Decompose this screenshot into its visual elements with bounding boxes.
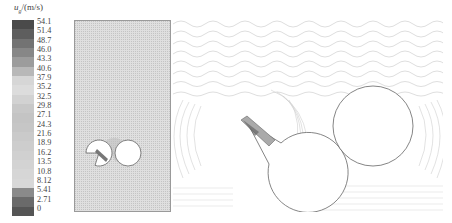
- colorbar-tick-label: 29.8: [37, 101, 51, 110]
- colorbar-tick-label: 0: [37, 204, 51, 213]
- colorbar-tick-label: 27.1: [37, 110, 51, 119]
- velocity-field-overview: [74, 20, 171, 212]
- colorbar-tick-label: 48.7: [37, 36, 51, 45]
- colorbar-tick-label: 43.3: [37, 54, 51, 63]
- colorbar-band: [12, 85, 34, 94]
- colorbar-band: [12, 151, 34, 160]
- colorbar-band: [12, 141, 34, 150]
- legend-unit: /(m/s): [22, 2, 44, 12]
- colorbar-tick-label: 8.12: [37, 176, 51, 185]
- colorbar-tick-label: 37.9: [37, 73, 51, 82]
- colorbar-band: [12, 48, 34, 57]
- colorbar-tick-label: 35.2: [37, 82, 51, 91]
- colorbar-band: [12, 20, 34, 29]
- colorbar-band: [12, 169, 34, 178]
- colorbar-band: [12, 113, 34, 122]
- colorbar-tick-label: 5.41: [37, 185, 51, 194]
- colorbar-band: [12, 207, 34, 216]
- colorbar-tick-label: 2.71: [37, 195, 51, 204]
- colorbar-band: [12, 104, 34, 113]
- colorbar: [12, 20, 34, 216]
- colorbar-band: [12, 179, 34, 188]
- colorbar-tick-label: 21.6: [37, 129, 51, 138]
- colorbar-band: [12, 95, 34, 104]
- left-cylinder-large: [241, 116, 348, 212]
- colorbar-tick-label: 46.0: [37, 45, 51, 54]
- colorbar-tick-label: 24.3: [37, 120, 51, 129]
- colorbar-tick-label: 51.4: [37, 26, 51, 35]
- colorbar-band: [12, 29, 34, 38]
- right-cylinder-small: [115, 140, 141, 166]
- colorbar-band: [12, 76, 34, 85]
- colorbar-tick-label: 10.8: [37, 167, 51, 176]
- colorbar-band: [12, 57, 34, 66]
- colorbar-band: [12, 132, 34, 141]
- overview-plot: [75, 21, 170, 211]
- colorbar-band: [12, 39, 34, 48]
- legend-title: ug/(m/s): [14, 2, 43, 14]
- colorbar-tick-label: 18.9: [37, 138, 51, 147]
- colorbar-tick-label: 32.5: [37, 92, 51, 101]
- colorbar-tick-label: 40.6: [37, 64, 51, 73]
- colorbar-band: [12, 197, 34, 206]
- colorbar-band: [12, 160, 34, 169]
- colorbar-band: [12, 67, 34, 76]
- colorbar-band: [12, 188, 34, 197]
- colorbar-tick-label: 13.5: [37, 157, 51, 166]
- zoom-plot: [173, 16, 443, 212]
- colorbar-labels: 54.151.448.746.043.340.637.935.232.529.8…: [37, 17, 51, 213]
- right-cylinder-large: [333, 86, 413, 166]
- colorbar-tick-label: 54.1: [37, 17, 51, 26]
- vector-waves: [173, 21, 443, 96]
- velocity-field-zoom: [173, 16, 443, 212]
- colorbar-band: [12, 123, 34, 132]
- colorbar-tick-label: 16.2: [37, 148, 51, 157]
